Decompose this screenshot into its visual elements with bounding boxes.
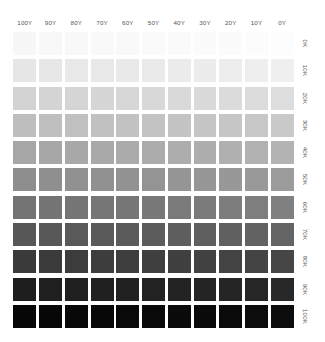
column-tick-label: 100Y [12,17,38,29]
swatch-cell [271,87,294,110]
swatch-row [12,303,295,330]
swatch-cell [116,196,139,219]
swatch-cell [194,250,217,273]
column-tick-label: 90Y [38,17,64,29]
swatch-cell [245,168,268,191]
column-tick-label: 70Y [89,17,115,29]
row-tick-label: 80K [303,256,310,267]
swatch-cell [91,59,114,82]
swatch-cell [245,305,268,328]
swatch-cell [116,59,139,82]
row-tick: 60K [298,194,314,221]
swatch-cell [39,59,62,82]
row-tick-label: 40K [303,147,310,158]
swatch-cell [271,250,294,273]
swatch-cell [142,250,165,273]
row-tick: 100K [298,303,314,330]
swatch-cell [13,196,36,219]
swatch-row [12,30,295,57]
swatch-cell [65,250,88,273]
swatch-cell [219,223,242,246]
swatch-cell [39,168,62,191]
swatch-row [12,85,295,112]
swatch-cell [65,59,88,82]
swatch-cell [65,305,88,328]
swatch-cell [219,59,242,82]
row-tick-label: 30K [303,120,310,131]
row-tick: 90K [298,275,314,302]
swatch-cell [194,168,217,191]
swatch-row [12,112,295,139]
swatch-cell [245,141,268,164]
swatch-cell [245,114,268,137]
swatch-cell [91,32,114,55]
swatch-cell [245,196,268,219]
swatch-cell [271,59,294,82]
swatch-cell [91,250,114,273]
swatch-cell [168,196,191,219]
swatch-row [12,221,295,248]
row-tick: 40K [298,139,314,166]
swatch-cell [13,32,36,55]
swatch-cell [245,278,268,301]
row-tick-label: 90K [303,283,310,294]
swatch-row [12,166,295,193]
swatch-cell [271,168,294,191]
swatch-cell [142,87,165,110]
swatch-cell [142,114,165,137]
swatch-cell [271,32,294,55]
swatch-cell [116,32,139,55]
swatch-cell [271,305,294,328]
swatch-cell [39,278,62,301]
row-tick: 50K [298,166,314,193]
swatch-cell [13,305,36,328]
swatch-row [12,194,295,221]
swatch-cell [142,59,165,82]
swatch-cell [219,168,242,191]
swatch-cell [219,114,242,137]
swatch-cell [142,168,165,191]
swatch-cell [91,87,114,110]
swatch-cell [142,305,165,328]
swatch-cell [65,114,88,137]
swatch-cell [142,223,165,246]
swatch-cell [245,223,268,246]
row-tick-label: 20K [303,92,310,103]
swatch-cell [219,250,242,273]
row-tick-label: 70K [303,229,310,240]
swatch-cell [271,223,294,246]
swatch-cell [194,278,217,301]
swatch-cell [91,168,114,191]
swatch-cell [116,278,139,301]
swatch-cell [116,114,139,137]
swatch-cell [168,278,191,301]
swatch-cell [116,87,139,110]
swatch-cell [168,32,191,55]
swatch-cell [168,59,191,82]
swatch-cell [91,223,114,246]
swatch-row [12,248,295,275]
column-tick-label: 50Y [141,17,167,29]
swatch-cell [39,141,62,164]
row-tick-label: 10K [303,65,310,76]
swatch-cell [91,196,114,219]
column-tick-label: 20Y [218,17,244,29]
swatch-cell [245,87,268,110]
swatch-cell [271,278,294,301]
swatch-cell [142,278,165,301]
row-tick: 10K [298,57,314,84]
swatch-grid [12,30,295,330]
swatch-cell [168,141,191,164]
swatch-cell [271,141,294,164]
swatch-cell [91,141,114,164]
swatch-cell [194,114,217,137]
swatch-cell [116,141,139,164]
column-tick-label: 40Y [166,17,192,29]
swatch-cell [142,32,165,55]
swatch-cell [194,141,217,164]
swatch-cell [245,59,268,82]
swatch-cell [194,87,217,110]
swatch-cell [194,59,217,82]
swatch-cell [219,196,242,219]
column-tick-label: 0Y [269,17,295,29]
